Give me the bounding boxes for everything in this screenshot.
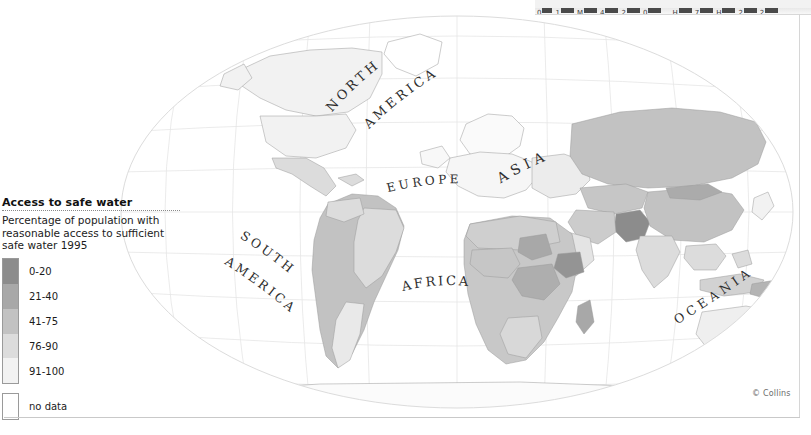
legend-swatch [2, 309, 19, 334]
legend-swatch [2, 358, 19, 384]
world-map-svg: NORTH AMERICA SOUTH AMERICA EUROPE ASIA [120, 12, 795, 417]
legend-label: 0-20 [29, 266, 52, 277]
legend-row-0-20[interactable]: 0-20 [2, 259, 190, 284]
copyright-credit: © Collins [752, 389, 791, 398]
legend-label: 21-40 [29, 291, 58, 302]
map-page: 0 1 M 4 2 0 H 7 H 2 2 [0, 0, 811, 435]
legend-items: 0-20 21-40 41-75 76-90 91-100 no data [2, 259, 190, 419]
footer-rule [4, 417, 800, 418]
legend-dotted-rule [2, 210, 180, 211]
legend-label: 91-100 [29, 366, 64, 377]
legend-row-21-40[interactable]: 21-40 [2, 284, 190, 309]
legend-row-91-100[interactable]: 91-100 [2, 359, 190, 384]
legend-title: Access to safe water [2, 196, 190, 209]
legend-row-76-90[interactable]: 76-90 [2, 334, 190, 359]
legend-swatch [2, 258, 19, 284]
legend-subtitle: Percentage of population with reasonable… [2, 214, 187, 252]
world-map[interactable]: NORTH AMERICA SOUTH AMERICA EUROPE ASIA [120, 12, 795, 417]
legend-swatch [2, 334, 19, 359]
map-legend: Access to safe water Percentage of popul… [0, 196, 190, 419]
legend-label: 76-90 [29, 341, 58, 352]
legend-swatch [2, 284, 19, 309]
legend-row-no-data[interactable]: no data [2, 394, 190, 419]
legend-row-41-75[interactable]: 41-75 [2, 309, 190, 334]
legend-swatch [2, 393, 19, 420]
legend-label: 41-75 [29, 316, 58, 327]
country-new-zealand[interactable] [792, 356, 795, 374]
page-edge-right [799, 14, 800, 417]
country-australia[interactable] [696, 306, 784, 360]
legend-label: no data [29, 401, 67, 412]
